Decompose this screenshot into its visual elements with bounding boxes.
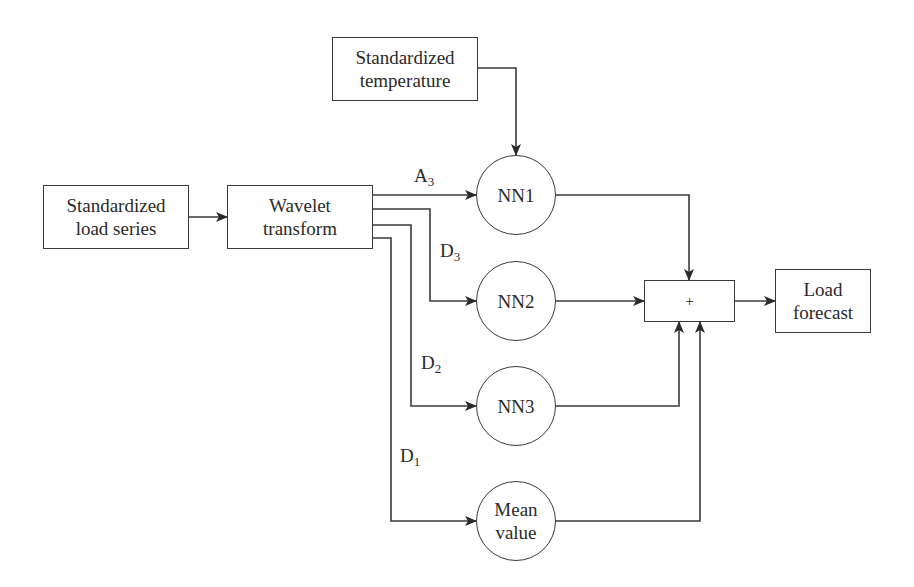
nn3-label: NN3 (498, 395, 535, 418)
edge-nn1-to-sum (556, 195, 689, 280)
mean-value-node: Mean value (476, 481, 556, 561)
edge-label-d1: D1 (400, 445, 420, 470)
temperature-line1: Standardized (355, 46, 454, 69)
load-forecast-box: Load forecast (775, 269, 871, 333)
sum-box: + (644, 280, 735, 322)
load-series-line1: Standardized (66, 194, 165, 217)
nn2-label: NN2 (498, 290, 535, 313)
standardized-load-series-box: Standardized load series (43, 185, 189, 249)
load-series-line2: load series (66, 217, 165, 240)
a3-sub: 3 (428, 174, 435, 189)
mean-line2: value (494, 521, 537, 544)
edge-temperature-to-nn1 (478, 68, 516, 155)
mean-line1: Mean (494, 498, 537, 521)
standardized-temperature-box: Standardized temperature (332, 37, 478, 101)
edge-label-a3: A3 (414, 165, 434, 190)
forecast-line2: forecast (793, 301, 853, 324)
d3-base: D (440, 240, 454, 261)
d1-base: D (400, 445, 414, 466)
edge-nn3-to-sum (556, 322, 679, 406)
wavelet-line2: transform (263, 217, 337, 240)
edge-d2-to-nn3 (373, 225, 476, 406)
nn1-label: NN1 (498, 184, 535, 207)
wavelet-transform-box: Wavelet transform (227, 185, 373, 249)
d2-sub: 2 (435, 361, 442, 376)
nn2-node: NN2 (476, 261, 556, 341)
forecast-line1: Load (793, 278, 853, 301)
edge-d1-to-mean (373, 238, 476, 521)
d3-sub: 3 (454, 249, 461, 264)
temperature-line2: temperature (355, 69, 454, 92)
d1-sub: 1 (414, 454, 421, 469)
nn3-node: NN3 (476, 366, 556, 446)
a3-base: A (414, 165, 428, 186)
plus-icon: + (685, 290, 693, 313)
nn1-node: NN1 (476, 155, 556, 235)
edge-label-d3: D3 (440, 240, 460, 265)
edge-label-d2: D2 (421, 352, 441, 377)
d2-base: D (421, 352, 435, 373)
wavelet-line1: Wavelet (263, 194, 337, 217)
edge-d3-to-nn2 (373, 209, 476, 301)
